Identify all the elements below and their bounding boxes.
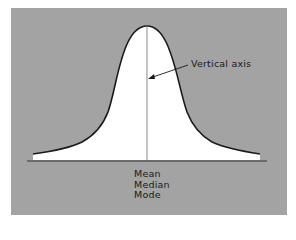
vertical-axis-label: Vertical axis <box>191 59 251 70</box>
mean-label: Mean <box>134 169 170 180</box>
central-tendency-labels: Mean Median Mode <box>134 169 170 201</box>
mode-label: Mode <box>134 190 170 201</box>
